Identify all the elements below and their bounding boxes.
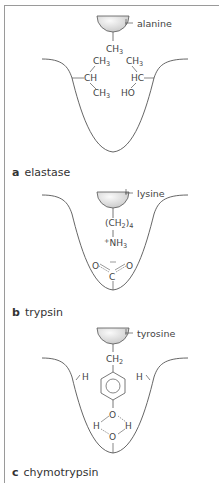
svg-text:H: H <box>125 421 132 431</box>
svg-text:(CH2)4: (CH2)4 <box>105 218 133 230</box>
svg-text:O: O <box>109 410 116 420</box>
panel-c-chymotrypsin: tyrosine CH2 O H H H H O <box>42 328 188 453</box>
substrate-ball-icon <box>97 16 129 32</box>
benzene-ring-icon <box>101 372 125 400</box>
caption-text: chymotrypsin <box>24 466 99 479</box>
svg-text:CH3: CH3 <box>106 44 123 56</box>
svg-text:CH2: CH2 <box>106 354 123 366</box>
svg-text:CH3: CH3 <box>93 88 110 100</box>
substrate-label: tyrosine <box>137 328 175 339</box>
caption-a: aelastase <box>12 166 70 179</box>
substrate-ball-icon <box>97 192 129 208</box>
caption-letter: c <box>12 466 19 479</box>
substrate-label: lysine <box>137 188 165 199</box>
substrate-ball-icon <box>97 328 129 344</box>
caption-text: trypsin <box>25 306 63 319</box>
svg-text:CH: CH <box>84 73 97 83</box>
caption-letter: b <box>12 306 20 319</box>
svg-text:H: H <box>136 372 143 382</box>
svg-text:+NH3: +NH3 <box>104 237 127 250</box>
panel-b-trypsin: lysine (CH2)4 +NH3 O O C <box>42 188 188 290</box>
caption-c: cchymotrypsin <box>12 466 99 479</box>
caption-text: elastase <box>24 166 70 179</box>
svg-text:H: H <box>93 421 100 431</box>
svg-text:H: H <box>82 372 89 382</box>
svg-text:C: C <box>109 272 115 282</box>
svg-text:O: O <box>109 432 116 442</box>
svg-text:O: O <box>126 261 133 271</box>
pocket-outline <box>42 59 188 152</box>
substrate-label: alanine <box>137 18 172 29</box>
panel-a-elastase: alanine CH3 CH CH3 CH3 HC CH3 HO <box>42 16 188 152</box>
svg-text:CH3: CH3 <box>93 56 110 68</box>
caption-letter: a <box>12 166 19 179</box>
caption-b: btrypsin <box>12 306 63 319</box>
svg-text:CH3: CH3 <box>126 56 143 68</box>
svg-text:HC: HC <box>131 73 144 83</box>
svg-text:O: O <box>92 261 99 271</box>
svg-text:HO: HO <box>121 88 135 98</box>
